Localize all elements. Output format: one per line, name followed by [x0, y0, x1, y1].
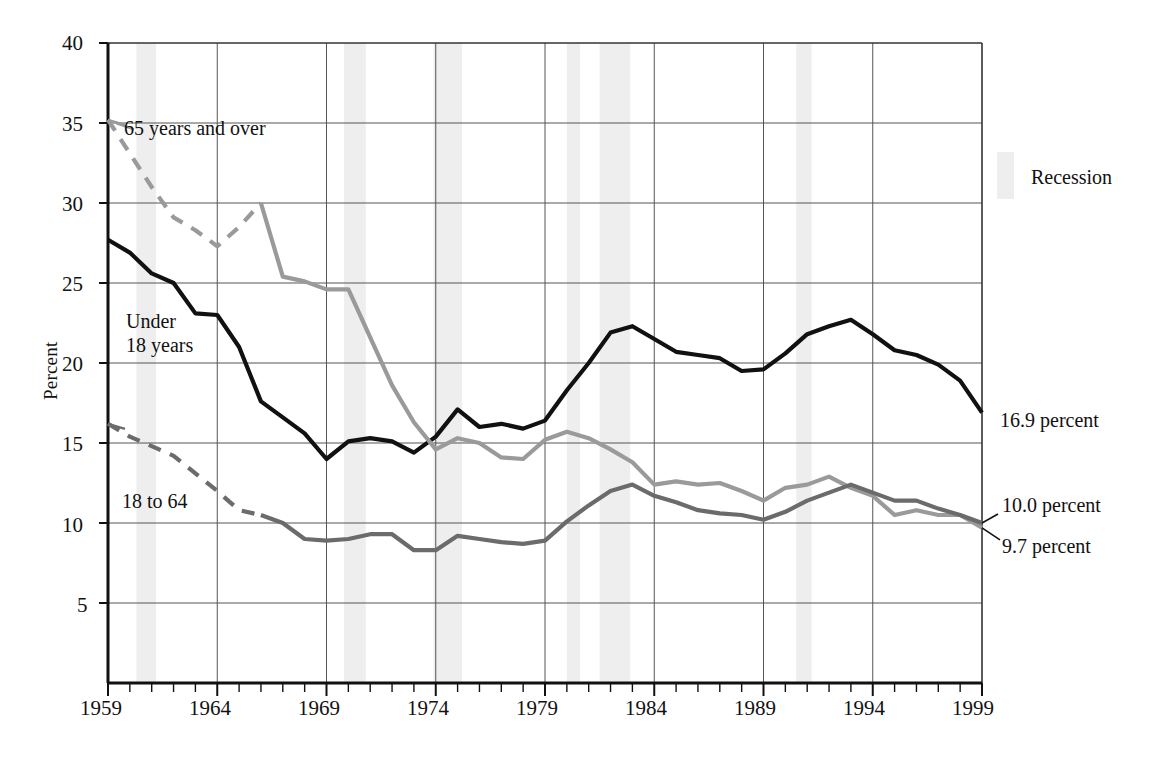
end-label-65-and-over: 9.7 percent — [1002, 535, 1091, 558]
series-label-18-to-64: 18 to 64 — [122, 490, 188, 514]
leader-18-to-64 — [982, 514, 998, 523]
series-label-under-18: Under 18 years — [126, 310, 193, 357]
recession-legend-swatch — [997, 152, 1014, 199]
series-label-65-and-over: 65 years and over — [124, 117, 266, 141]
x-tick-1959: 1959 — [80, 696, 122, 721]
x-tick-1969: 1969 — [298, 696, 340, 721]
end-label-under-18: 16.9 percent — [1000, 409, 1099, 432]
leader-65-and-over — [982, 528, 1000, 540]
chart-canvas — [0, 0, 1158, 758]
x-tick-1989: 1989 — [734, 696, 776, 721]
x-tick-1984: 1984 — [625, 696, 667, 721]
y-tick-30: 30 — [62, 192, 83, 217]
end-label-18-to-64: 10.0 percent — [1002, 494, 1101, 517]
recession-legend-label: Recession — [1031, 166, 1112, 189]
x-axis-minor-ticks — [99, 43, 982, 696]
y-tick-20: 20 — [62, 352, 83, 377]
series-label-under-18-line1: Under — [126, 310, 193, 334]
x-tick-1994: 1994 — [843, 696, 885, 721]
y-tick-25: 25 — [62, 272, 83, 297]
series-label-under-18-line2: 18 years — [126, 334, 193, 358]
y-tick-35: 35 — [62, 112, 83, 137]
y-tick-10: 10 — [62, 513, 83, 538]
y-tick-40: 40 — [62, 31, 83, 56]
poverty-rate-line-chart: Percent 40 35 30 25 20 15 10 5 1959 1964… — [0, 0, 1158, 758]
x-tick-1964: 1964 — [189, 696, 231, 721]
y-axis-title: Percent — [40, 342, 62, 400]
x-tick-1979: 1979 — [516, 696, 558, 721]
x-tick-1974: 1974 — [407, 696, 449, 721]
x-tick-1999: 1999 — [952, 696, 994, 721]
y-tick-5: 5 — [77, 593, 88, 618]
y-tick-15: 15 — [62, 432, 83, 457]
